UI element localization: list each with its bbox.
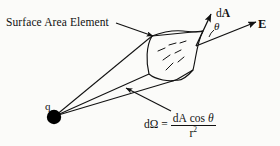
leader-lines	[116, 23, 171, 111]
hatch-3	[180, 41, 186, 43]
hatch-2	[169, 43, 176, 45]
tube-bottom-edge	[176, 70, 193, 80]
numerator-cos: cos	[190, 112, 205, 124]
area-vector-label-a: A	[222, 7, 230, 19]
hatch-7	[178, 57, 184, 62]
physics-diagram-figure: Surface Area Element dA E θ q dΩ = dA co…	[0, 0, 280, 146]
cone-inner-ray	[55, 74, 149, 116]
tube-near-face-outline	[147, 36, 176, 81]
cone-upper-ray	[55, 36, 152, 116]
surface-area-element-label: Surface Area Element	[6, 17, 109, 29]
hatch-5	[175, 50, 181, 53]
hatch-4	[163, 55, 170, 60]
equation-denominator: r2	[189, 126, 197, 139]
solid-angle-leader	[126, 88, 171, 111]
area-vector-label: dA	[216, 8, 230, 20]
hatch-1	[158, 48, 165, 51]
numerator-theta: θ	[208, 112, 214, 124]
point-charge-label: q	[45, 101, 51, 112]
cone-lower-ray	[55, 80, 176, 116]
surface-face-hatching	[158, 41, 186, 70]
solid-angle-equation: dΩ = dA cos θ r2	[144, 112, 216, 139]
surface-tube-body	[147, 31, 203, 81]
denominator-exponent: 2	[193, 125, 197, 134]
equation-lhs: dΩ	[144, 119, 158, 132]
equation-fraction: dA cos θ r2	[171, 112, 216, 139]
field-vector-label: E	[258, 18, 266, 31]
hatch-6	[166, 63, 173, 70]
equation-equals-sign: =	[161, 119, 168, 132]
equation-numerator: dA cos θ	[171, 112, 216, 125]
angle-theta-label: θ	[214, 21, 219, 32]
numerator-dA: dA	[173, 112, 187, 124]
surface-label-leader	[116, 23, 153, 36]
